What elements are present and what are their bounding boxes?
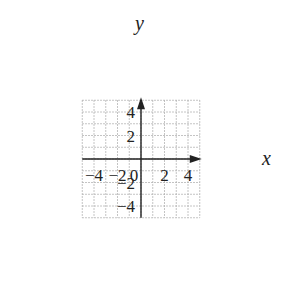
x-axis-label: x <box>261 147 271 169</box>
y-tick-label: −2 <box>117 174 135 193</box>
y-tick-label: −4 <box>117 197 136 216</box>
x-axis-arrow-icon <box>190 155 202 163</box>
y-tick-label: 4 <box>127 103 136 122</box>
y-axis-arrow-icon <box>137 97 145 109</box>
x-tick-label: 4 <box>184 166 193 185</box>
axes <box>82 97 202 218</box>
y-tick-label: 2 <box>127 127 136 146</box>
x-tick-label: −4 <box>85 166 104 185</box>
x-tick-label: 2 <box>160 166 169 185</box>
coordinate-plane: −4−2024−4−224 x y <box>0 0 285 301</box>
y-axis-label: y <box>133 12 144 35</box>
